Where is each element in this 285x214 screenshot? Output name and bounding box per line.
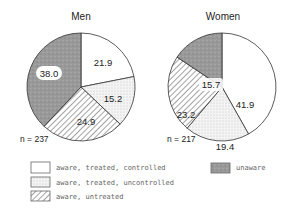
legend-label-controlled: aware, treated, controlled: [56, 164, 166, 172]
men-value-uncontrolled: 15.2: [104, 93, 123, 104]
legend-label-unaware: unaware: [236, 164, 266, 172]
legend-label-uncontrolled: aware, treated, uncontrolled: [56, 179, 174, 187]
women-sample-size: n = 217: [167, 134, 196, 144]
men-sample-size: n = 237: [20, 134, 49, 144]
legend-label-untreated: aware, untreated: [56, 193, 123, 201]
legend: aware, treated, controlled aware, treate…: [31, 162, 266, 201]
women-value-controlled: 41.9: [236, 99, 255, 110]
legend-swatch-controlled: [31, 162, 50, 173]
women-value-unaware: 15.7: [202, 79, 221, 90]
men-chart-title: Men: [71, 11, 90, 22]
legend-swatch-uncontrolled: [31, 177, 50, 187]
women-value-uncontrolled: 19.4: [216, 141, 235, 152]
women-value-untreated: 23.2: [177, 109, 196, 120]
men-value-unaware: 38.0: [40, 68, 59, 79]
men-value-controlled: 21.9: [94, 57, 113, 68]
pie-charts-figure: Men 21.9 15.2 24.9 38.0 n = 237 Women 41…: [0, 0, 285, 214]
women-chart-title: Women: [206, 11, 240, 22]
men-value-untreated: 24.9: [77, 116, 96, 127]
legend-swatch-unaware: [211, 163, 230, 173]
legend-swatch-untreated: [31, 191, 50, 201]
